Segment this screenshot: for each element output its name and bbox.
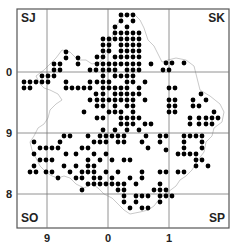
record-dot — [122, 194, 127, 199]
record-dot — [204, 98, 209, 103]
record-dot — [50, 170, 55, 175]
record-dot — [88, 80, 93, 85]
record-dot — [137, 86, 142, 91]
record-dot — [170, 194, 175, 199]
record-dot — [149, 122, 154, 127]
record-dot — [119, 62, 124, 67]
record-dot — [131, 98, 136, 103]
record-dot — [101, 68, 106, 73]
record-dot — [158, 188, 163, 193]
record-dot — [194, 134, 199, 139]
record-dot — [131, 74, 136, 79]
record-dot — [74, 152, 79, 157]
record-dot — [125, 116, 130, 121]
record-dot — [125, 13, 130, 18]
record-dot — [161, 68, 166, 73]
record-dot — [140, 194, 145, 199]
record-dot — [194, 158, 199, 163]
record-dot — [194, 164, 199, 169]
record-dot — [52, 74, 57, 79]
left-tick-0: 0 — [6, 66, 12, 78]
record-dot — [113, 98, 118, 103]
record-dot — [167, 98, 172, 103]
record-dot — [28, 170, 33, 175]
record-dot — [76, 86, 81, 91]
record-dot — [76, 56, 81, 61]
record-dot — [158, 134, 163, 139]
record-dot — [113, 25, 118, 30]
record-dot — [131, 104, 136, 109]
record-dot — [200, 146, 205, 151]
record-dot — [113, 128, 118, 133]
record-dot — [122, 140, 127, 145]
record-dot — [131, 62, 136, 67]
record-dot — [164, 194, 169, 199]
record-dot — [128, 206, 133, 211]
record-dot — [167, 110, 172, 115]
record-dot — [125, 74, 130, 79]
record-dot — [122, 200, 127, 205]
record-dot — [116, 182, 121, 187]
record-dot — [107, 62, 112, 67]
left-tick-9: 9 — [6, 127, 12, 139]
record-dot — [110, 176, 115, 181]
record-dot — [52, 68, 57, 73]
record-dot — [131, 31, 136, 36]
record-dot — [119, 43, 124, 48]
record-dot — [107, 43, 112, 48]
record-dot — [191, 104, 196, 109]
record-dot — [164, 148, 169, 153]
record-dot — [158, 200, 163, 205]
record-dot — [74, 164, 79, 169]
record-dot — [197, 122, 202, 127]
bottom-tick-9: 9 — [44, 232, 50, 244]
record-dot — [216, 116, 221, 121]
record-dot — [104, 140, 109, 145]
record-dot — [101, 80, 106, 85]
record-dot — [164, 188, 169, 193]
record-dot — [58, 68, 63, 73]
record-dot — [182, 152, 187, 157]
record-dot — [210, 116, 215, 121]
record-dot — [62, 134, 67, 139]
record-dot — [86, 182, 91, 187]
record-dot — [143, 122, 148, 127]
record-dot — [107, 80, 112, 85]
record-dot — [158, 140, 163, 145]
bottom-tick-0: 0 — [105, 232, 111, 244]
record-dot — [58, 140, 63, 145]
record-dot — [134, 194, 139, 199]
record-dot — [119, 86, 124, 91]
record-dot — [173, 98, 178, 103]
record-dot — [104, 182, 109, 187]
corner-label-bottom-left: SO — [21, 211, 38, 225]
record-dot — [82, 110, 87, 115]
record-dot — [137, 43, 142, 48]
record-dot — [131, 55, 136, 60]
record-dot — [173, 86, 178, 91]
record-dot — [94, 68, 99, 73]
record-dot — [88, 98, 93, 103]
record-dot — [32, 152, 37, 157]
record-dot — [92, 176, 97, 181]
record-dot — [158, 194, 163, 199]
record-dot — [113, 55, 118, 60]
record-dot — [182, 170, 187, 175]
record-dot — [131, 68, 136, 73]
record-dot — [146, 194, 151, 199]
record-dot — [146, 146, 151, 151]
record-dot — [101, 98, 106, 103]
record-dot — [101, 92, 106, 97]
record-dot — [40, 80, 45, 85]
record-dot — [122, 158, 127, 163]
record-dot — [137, 55, 142, 60]
record-dot — [34, 170, 39, 175]
record-dot — [98, 176, 103, 181]
record-dot — [116, 188, 121, 193]
record-dot — [113, 68, 118, 73]
record-dot — [44, 146, 49, 151]
record-dot — [119, 116, 124, 121]
record-dot — [182, 140, 187, 145]
record-dot — [88, 86, 93, 91]
record-dot — [197, 104, 202, 109]
